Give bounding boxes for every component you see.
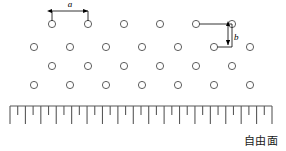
lattice-atom <box>66 43 73 50</box>
lattice-atom <box>84 20 91 27</box>
lattice-atom <box>156 20 163 27</box>
dimension-b-label: b <box>234 32 239 42</box>
lattice-atom <box>156 62 163 69</box>
lattice-atom <box>66 81 73 88</box>
lattice-atom <box>120 20 127 27</box>
lattice-atom <box>210 43 217 50</box>
crystal-lattice-figure: a b 自由面 <box>0 0 286 151</box>
lattice-atom <box>174 81 181 88</box>
lattice-atom <box>30 43 37 50</box>
lattice-atom <box>192 20 199 27</box>
lattice-atom <box>30 81 37 88</box>
free-surface-ruler <box>10 106 272 124</box>
lattice-atom <box>138 43 145 50</box>
lattice-diagram: a b <box>0 0 286 151</box>
lattice-atom <box>48 20 55 27</box>
lattice-atom <box>174 43 181 50</box>
free-surface-caption: 自由面 <box>244 132 279 148</box>
lattice-atom <box>228 62 235 69</box>
lattice-atom <box>102 43 109 50</box>
dimension-a-annotation <box>52 11 88 21</box>
lattice-atom <box>84 62 91 69</box>
lattice-atom <box>192 62 199 69</box>
lattice-atom <box>246 43 253 50</box>
lattice-atom <box>138 81 145 88</box>
lattice-atom <box>48 62 55 69</box>
dimension-a-label: a <box>68 0 73 9</box>
lattice-atom <box>246 81 253 88</box>
lattice-atom <box>102 81 109 88</box>
lattice-atom <box>120 62 127 69</box>
lattice-atom-group <box>30 20 253 88</box>
lattice-atom <box>210 81 217 88</box>
